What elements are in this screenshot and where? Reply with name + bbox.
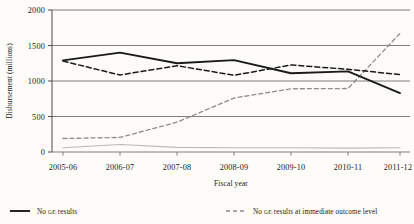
y-tick-label-500: 500 — [32, 113, 45, 122]
legend-label-no-ge-results: No GE results — [37, 208, 77, 216]
x-tick-label-2006-07: 2006-07 — [106, 163, 135, 172]
x-tick-label-2010-11: 2010-11 — [334, 163, 362, 172]
legend-text-suffix-2: results at immediate outcome level — [272, 208, 378, 216]
y-tick-label-1000: 1000 — [28, 77, 45, 86]
chart-background — [0, 0, 414, 224]
chart-figure: 2000 1500 1000 500 0 Disbursement (milli… — [0, 0, 414, 224]
x-tick-label-2011-12: 2011-12 — [384, 163, 412, 172]
y-tick-label-2000: 2000 — [28, 6, 45, 15]
x-axis-title: Fiscal year — [214, 179, 248, 188]
y-tick-label-1500: 1500 — [28, 42, 45, 51]
x-tick-label-2005-06: 2005-06 — [49, 163, 78, 172]
x-tick-label-2009-10: 2009-10 — [277, 163, 306, 172]
line-chart: 2000 1500 1000 500 0 Disbursement (milli… — [0, 0, 414, 224]
legend-text-prefix-1: No — [37, 208, 48, 216]
x-tick-label-2008-09: 2008-09 — [220, 163, 249, 172]
legend-label-no-ge-results-immediate-outcome-level: No GE results at immediate outcome level — [253, 208, 377, 216]
legend-text-suffix-1: results — [56, 208, 77, 216]
legend-text-prefix-2: No — [253, 208, 264, 216]
x-tick-label-2007-08: 2007-08 — [163, 163, 192, 172]
y-axis-title: Disbursement (millions) — [5, 43, 14, 119]
y-tick-label-0: 0 — [41, 148, 45, 157]
